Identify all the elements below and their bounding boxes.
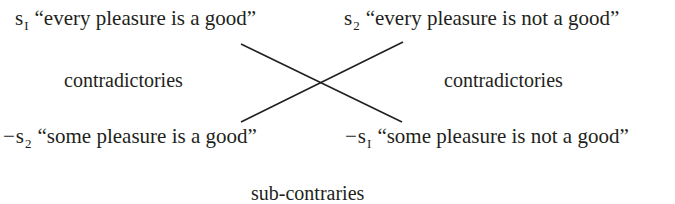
node-proposition: “some pleasure is a good”	[38, 124, 257, 148]
node-subscript: I	[24, 18, 28, 33]
node-subscript: 2	[353, 18, 360, 33]
negation-sign: −	[3, 124, 15, 148]
node-symbol: s	[16, 124, 24, 148]
node-subscript: 2	[25, 136, 32, 151]
negation-sign: −	[345, 124, 357, 148]
node-bottom-right: −sI“some pleasure is not a good”	[345, 124, 629, 151]
node-proposition: “some pleasure is not a good”	[377, 124, 628, 148]
relation-label-bottom: sub-contraries	[251, 181, 364, 204]
relation-label-right: contradictories	[444, 68, 563, 92]
node-symbol: s	[15, 6, 23, 30]
node-proposition: “every pleasure is a good”	[35, 6, 257, 30]
node-subscript: I	[367, 136, 371, 151]
node-top-left: sI“every pleasure is a good”	[15, 6, 256, 33]
node-symbol: s	[358, 124, 366, 148]
relation-label-left: contradictories	[64, 68, 183, 92]
node-top-right: s2“every pleasure is not a good”	[344, 6, 619, 33]
square-of-opposition-diagram: sI“every pleasure is a good” s2“every pl…	[0, 0, 675, 204]
node-proposition: “every pleasure is not a good”	[366, 6, 620, 30]
node-symbol: s	[344, 6, 352, 30]
node-bottom-left: −s2“some pleasure is a good”	[3, 124, 257, 151]
